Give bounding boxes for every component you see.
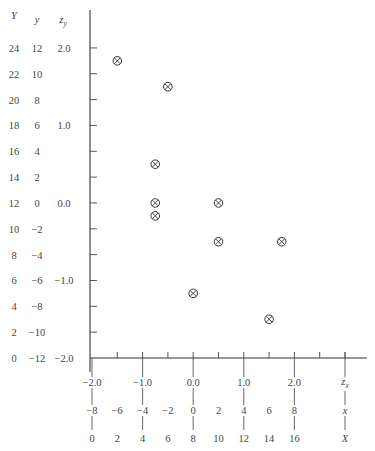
x-tick-label-z_x: −1.0 — [133, 377, 152, 388]
data-point — [164, 82, 173, 91]
y-tick-label-Y: 22 — [9, 69, 20, 80]
x-tick-label-x: −4 — [137, 405, 149, 416]
data-point — [277, 237, 286, 246]
y-tick-label-y: −4 — [31, 250, 43, 261]
x-tick-label-x: 8 — [292, 405, 297, 416]
y-header-Y: Y — [11, 10, 18, 21]
x-tick-label-X: 0 — [89, 433, 94, 444]
x-tick-label-x: −6 — [112, 405, 123, 416]
y-tick-label-Y: 0 — [11, 353, 16, 364]
data-point — [151, 199, 160, 208]
data-points — [113, 57, 286, 324]
x-tick-label-x: −8 — [86, 405, 97, 416]
x-tick-label-z_x: 0.0 — [187, 377, 200, 388]
x-tick-label-x: 4 — [241, 405, 247, 416]
y-tick-label-y: 12 — [32, 43, 43, 54]
x-tick-label-X: 12 — [239, 433, 250, 444]
y-tick-label-z_y: 0.0 — [57, 198, 70, 209]
y-tick-label-Y: 24 — [9, 43, 20, 54]
axes — [90, 10, 367, 372]
data-point — [151, 212, 160, 221]
x-header-X: X — [341, 433, 349, 444]
data-point — [214, 237, 223, 246]
data-point — [265, 315, 274, 324]
data-point — [189, 289, 198, 298]
y-tick-label-y: −8 — [31, 301, 42, 312]
x-tick-label-x: 2 — [216, 405, 221, 416]
x-tick-label-X: 2 — [115, 433, 120, 444]
x-tick-label-X: 14 — [264, 433, 275, 444]
data-point — [151, 160, 160, 169]
data-point — [214, 199, 223, 208]
x-tick-label-z_x: 1.0 — [237, 377, 250, 388]
x-tick-label-z_x: −2.0 — [82, 377, 101, 388]
x-header-z_x: zx — [340, 376, 349, 390]
y-tick-label-Y: 6 — [11, 275, 16, 286]
y-tick-label-Y: 20 — [9, 95, 20, 106]
y-tick-label-Y: 2 — [11, 327, 16, 338]
scatter-chart: Yyzy24122.022102081861.01641421200.010−2… — [0, 0, 375, 451]
x-tick-label-x: 6 — [266, 405, 271, 416]
x-tick-label-x: 0 — [191, 405, 196, 416]
x-tick-label-z_x: 2.0 — [288, 377, 301, 388]
x-tick-label-X: 4 — [140, 433, 146, 444]
x-tick-label-X: 10 — [213, 433, 224, 444]
y-tick-label-y: 2 — [34, 172, 39, 183]
y-tick-label-y: −10 — [29, 327, 45, 338]
y-tick-label-Y: 16 — [9, 146, 20, 157]
y-tick-label-y: 8 — [34, 95, 39, 106]
y-tick-label-Y: 8 — [11, 250, 16, 261]
y-tick-label-y: 6 — [34, 120, 39, 131]
y-axis-labels: Yyzy24122.022102081861.01641421200.010−2… — [9, 10, 74, 364]
y-header-y: y — [34, 14, 40, 25]
y-tick-label-z_y: 1.0 — [57, 120, 70, 131]
x-tick-label-X: 8 — [191, 433, 196, 444]
y-tick-label-y: 4 — [34, 146, 40, 157]
y-tick-label-Y: 4 — [11, 301, 17, 312]
y-tick-label-y: −6 — [31, 275, 42, 286]
y-header-zy: zy — [58, 14, 67, 28]
x-axis-labels: −2.0−1.00.01.02.0zx−8−6−4−202468x0246810… — [82, 376, 349, 444]
y-tick-label-z_y: 2.0 — [57, 43, 70, 54]
x-tick-label-x: −2 — [162, 405, 173, 416]
y-tick-label-z_y: −1.0 — [54, 275, 73, 286]
y-tick-label-y: −12 — [29, 353, 45, 364]
y-tick-label-z_y: −2.0 — [54, 353, 73, 364]
x-tick-label-X: 16 — [289, 433, 300, 444]
y-tick-label-Y: 12 — [9, 198, 20, 209]
data-point — [113, 57, 122, 66]
y-tick-label-Y: 18 — [9, 120, 20, 131]
y-tick-label-y: 0 — [34, 198, 39, 209]
y-tick-label-y: 10 — [32, 69, 43, 80]
y-tick-label-Y: 10 — [9, 224, 20, 235]
y-tick-label-y: −2 — [31, 224, 42, 235]
x-axis-ticks — [92, 352, 345, 430]
x-header-x: x — [342, 405, 348, 416]
y-tick-label-Y: 14 — [9, 172, 20, 183]
x-tick-label-X: 6 — [165, 433, 170, 444]
y-axis-ticks — [90, 48, 97, 332]
